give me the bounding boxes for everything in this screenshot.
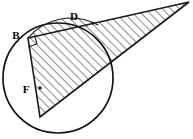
- geometry-figure: B D F: [0, 0, 193, 139]
- label-b: B: [12, 29, 20, 41]
- point-f-marker: [38, 86, 41, 89]
- geometry-canvas: B D F: [0, 0, 193, 139]
- label-d: D: [70, 10, 78, 22]
- label-f: F: [23, 83, 30, 95]
